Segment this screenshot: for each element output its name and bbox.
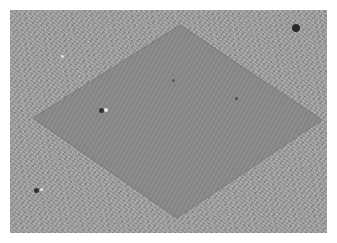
particle-dot [235, 97, 238, 100]
micrograph-image [10, 10, 327, 233]
particle-dot [104, 108, 108, 112]
particle-dot [99, 108, 104, 113]
particle-dot [40, 188, 43, 191]
particle-dot [61, 55, 64, 58]
particle-dot [34, 188, 39, 193]
particle-dot [292, 24, 300, 32]
particle-dot [172, 79, 175, 82]
rhombus-region [10, 10, 327, 233]
